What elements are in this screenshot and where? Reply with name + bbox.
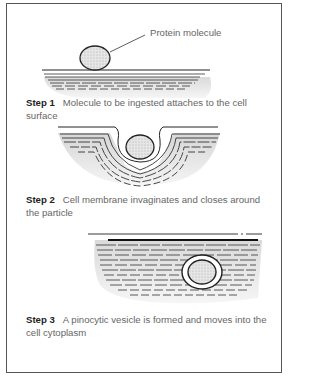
step1-text: Molecule to be ingested attaches to the … (26, 97, 247, 121)
cell-membrane-step2 (58, 127, 220, 186)
cell-cytoplasm-step3 (88, 234, 262, 303)
vesicle-content (188, 260, 216, 284)
step3-label: Step 3 (26, 314, 55, 325)
step3-text: A pinocytic vesicle is formed and moves … (26, 314, 267, 338)
step1-label: Step 1 (26, 97, 55, 108)
step2-label: Step 2 (26, 194, 55, 205)
cell-membrane-step1 (42, 70, 211, 98)
step3-caption: Step 3A pinocytic vesicle is formed and … (26, 313, 268, 339)
protein-molecule-engulfed (126, 135, 154, 159)
callout-line (110, 35, 145, 52)
protein-molecule (80, 46, 110, 70)
step2-text: Cell membrane invaginates and closes aro… (26, 194, 260, 218)
step2-caption: Step 2Cell membrane invaginates and clos… (26, 193, 268, 219)
step1-caption: Step 1Molecule to be ingested attaches t… (26, 96, 276, 122)
protein-molecule-label: Protein molecule (150, 27, 221, 38)
